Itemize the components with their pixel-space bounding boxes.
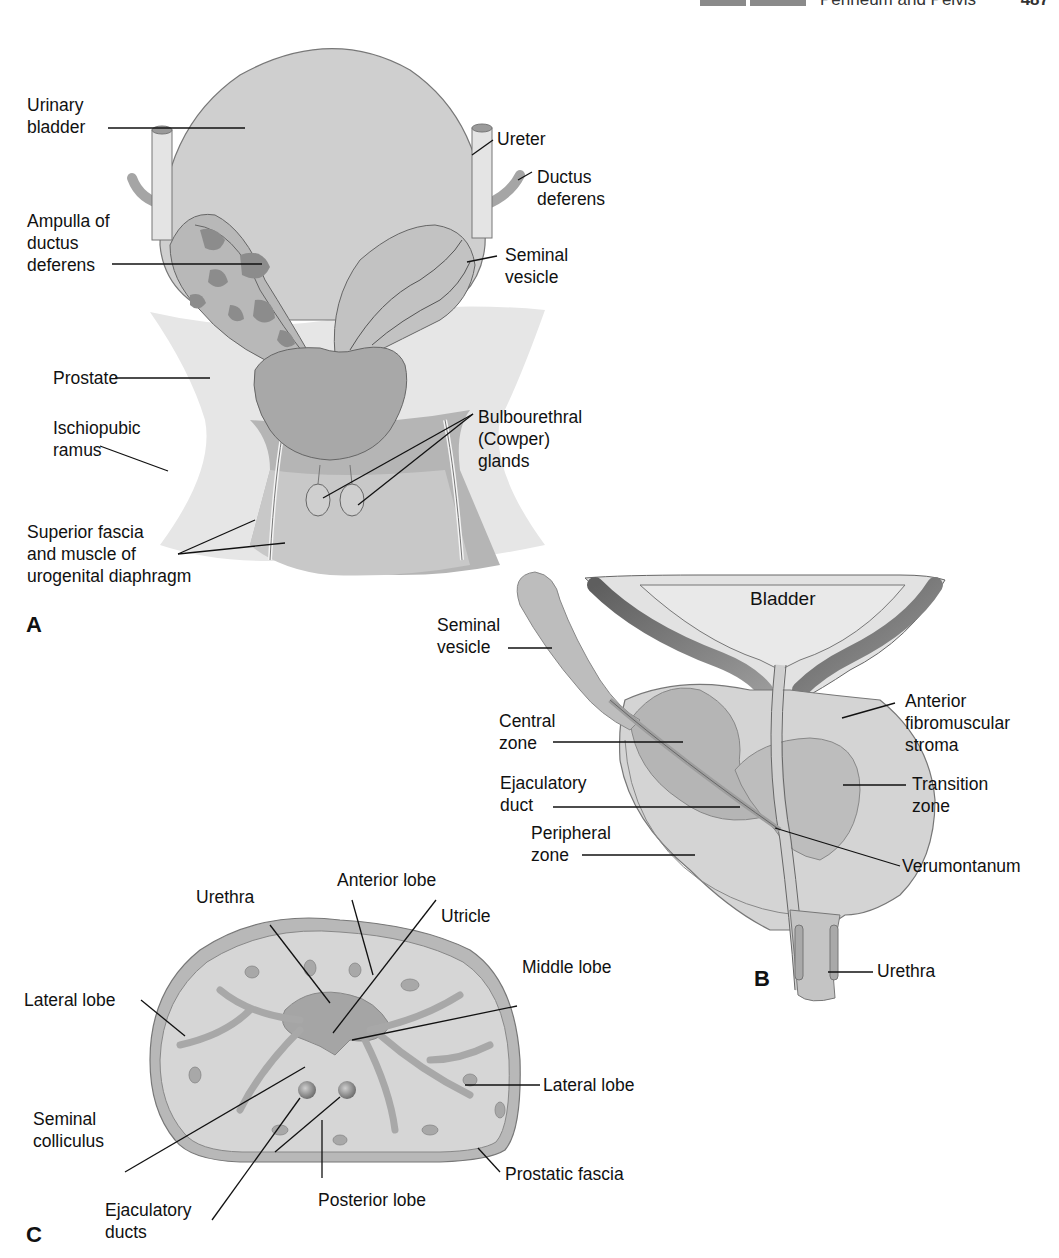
label-central-zone: Central zone <box>499 710 555 754</box>
label-anterior-fibromuscular-stroma: Anterior fibromuscular stroma <box>905 690 1010 756</box>
anatomy-figure <box>0 0 1059 1258</box>
label-posterior-lobe: Posterior lobe <box>318 1189 426 1211</box>
label-seminal-vesicle-b: Seminal vesicle <box>437 614 500 658</box>
label-prostate: Prostate <box>53 367 118 389</box>
label-urethra-c: Urethra <box>196 886 254 908</box>
label-utricle: Utricle <box>441 905 491 927</box>
panel-a-illustration <box>100 49 545 576</box>
label-lateral-lobe-left: Lateral lobe <box>24 989 115 1011</box>
label-bladder: Bladder <box>750 588 816 610</box>
label-middle-lobe: Middle lobe <box>522 956 612 978</box>
label-prostatic-fascia: Prostatic fascia <box>505 1163 624 1185</box>
panel-letter-b: B <box>754 966 770 992</box>
label-lateral-lobe-right: Lateral lobe <box>543 1074 634 1096</box>
label-seminal-colliculus: Seminal colliculus <box>33 1108 104 1152</box>
label-anterior-lobe: Anterior lobe <box>337 869 436 891</box>
label-ejaculatory-ducts: Ejaculatory ducts <box>105 1199 192 1243</box>
diaphragm-muscle <box>250 470 470 576</box>
label-ductus-deferens: Ductus deferens <box>537 166 605 210</box>
label-superior-fascia: Superior fascia and muscle of urogenital… <box>27 521 191 587</box>
panel-letter-c: C <box>26 1222 42 1248</box>
label-bulbourethral-glands: Bulbourethral (Cowper) glands <box>478 406 582 472</box>
label-seminal-vesicle-a: Seminal vesicle <box>505 244 568 288</box>
label-urinary-bladder: Urinary bladder <box>27 94 85 138</box>
panel-c-illustration <box>125 900 540 1220</box>
label-verumontanum: Verumontanum <box>902 855 1021 877</box>
panel-letter-a: A <box>26 612 42 638</box>
label-peripheral-zone: Peripheral zone <box>531 822 611 866</box>
label-ejaculatory-duct: Ejaculatory duct <box>500 772 587 816</box>
label-ischiopubic-ramus: Ischiopubic ramus <box>53 417 141 461</box>
label-transition-zone: Transition zone <box>912 773 988 817</box>
label-ureter: Ureter <box>497 128 546 150</box>
label-ampulla-ductus-deferens: Ampulla of ductus deferens <box>27 210 110 276</box>
label-urethra-b: Urethra <box>877 960 935 982</box>
